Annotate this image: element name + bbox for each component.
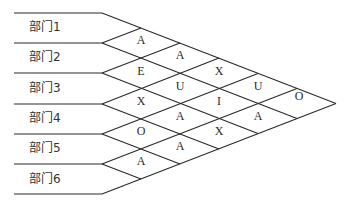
relationship-cell-5-6: A bbox=[131, 154, 151, 168]
department-label-3: 部门3 bbox=[29, 81, 61, 95]
relationship-cell-2-6: A bbox=[248, 109, 268, 123]
relationship-cell-1-6: O bbox=[289, 89, 309, 103]
relationship-cell-4-6: A bbox=[170, 139, 190, 153]
relationship-cell-1-4: X bbox=[209, 64, 229, 78]
department-label-4: 部门4 bbox=[29, 111, 61, 125]
department-label-2: 部门2 bbox=[29, 50, 61, 64]
relationship-cell-2-3: E bbox=[131, 64, 151, 78]
relationship-cell-1-2: A bbox=[131, 33, 151, 47]
relationship-cell-4-5: O bbox=[131, 124, 151, 138]
relationship-cell-1-3: A bbox=[170, 48, 190, 62]
relationship-cell-3-5: A bbox=[170, 109, 190, 123]
relationship-cell-3-4: X bbox=[131, 94, 151, 108]
relationship-cell-2-5: I bbox=[209, 94, 229, 108]
department-label-6: 部门6 bbox=[29, 172, 61, 186]
department-label-5: 部门5 bbox=[29, 141, 61, 155]
department-label-1: 部门1 bbox=[29, 20, 61, 34]
relationship-cell-3-6: X bbox=[209, 124, 229, 138]
relationship-cell-2-4: U bbox=[170, 79, 190, 93]
relationship-cell-1-5: U bbox=[248, 79, 268, 93]
